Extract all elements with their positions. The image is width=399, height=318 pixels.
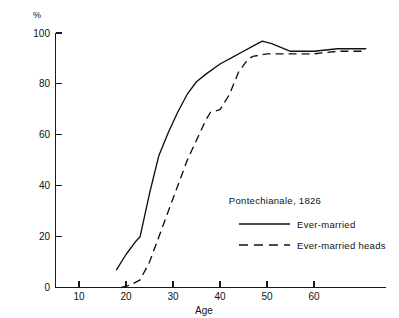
y-tick-label-100: 100 xyxy=(33,28,50,39)
y-tick-label-20: 20 xyxy=(39,231,51,242)
legend-label-ever-married: Ever-married xyxy=(297,219,356,230)
y-tick-label-80: 80 xyxy=(39,78,51,89)
y-tick-label-60: 60 xyxy=(39,129,51,140)
legend: Pontechianale, 1826 Ever-married Ever-ma… xyxy=(229,195,386,251)
x-tick-label-50: 50 xyxy=(261,291,273,302)
x-axis-title: Age xyxy=(195,305,213,316)
legend-title: Pontechianale, 1826 xyxy=(229,195,321,206)
chart-figure: 100 80 60 40 20 0 10 20 30 40 50 60 % Ag… xyxy=(0,0,399,318)
series-line-ever-married xyxy=(117,41,366,270)
x-tick-label-10: 10 xyxy=(73,291,85,302)
y-tick-label-0: 0 xyxy=(44,282,50,293)
y-axis-unit-label: % xyxy=(33,10,41,20)
series-line-ever-married-heads xyxy=(121,51,365,287)
y-axis-ticks xyxy=(56,33,62,236)
legend-label-ever-married-heads: Ever-married heads xyxy=(297,240,386,251)
x-tick-label-40: 40 xyxy=(214,291,226,302)
y-tick-label-40: 40 xyxy=(39,180,51,191)
x-tick-label-20: 20 xyxy=(120,291,132,302)
line-chart: 100 80 60 40 20 0 10 20 30 40 50 60 % Ag… xyxy=(0,0,399,318)
x-tick-label-60: 60 xyxy=(308,291,320,302)
x-axis-ticks xyxy=(79,281,314,288)
x-tick-label-30: 30 xyxy=(167,291,179,302)
